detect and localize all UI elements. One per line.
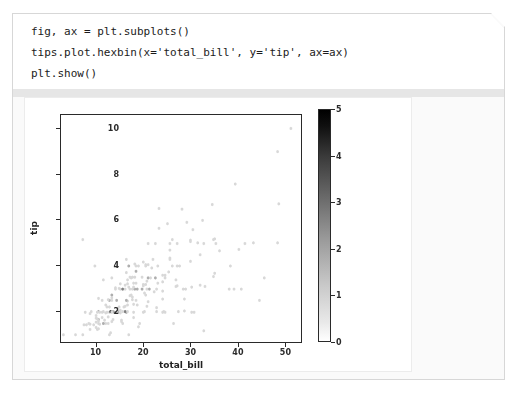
x-axis-label: total_bill xyxy=(60,360,302,370)
colorbar-tick-label: 1 xyxy=(336,291,342,300)
code-line-3: plt.show() xyxy=(31,67,97,80)
x-tick-label: 50 xyxy=(270,348,300,357)
y-tick-label: 6 xyxy=(79,215,119,224)
cell-separator xyxy=(13,89,504,97)
x-tick-label: 10 xyxy=(81,348,111,357)
colorbar-tick xyxy=(331,249,335,250)
y-tick xyxy=(56,265,60,266)
x-tick xyxy=(238,343,239,347)
matplotlib-figure: 246810 1020304050 total_bill tip 012345 xyxy=(24,97,412,372)
y-tick xyxy=(56,174,60,175)
x-tick-label: 20 xyxy=(128,348,158,357)
code-line-2: tips.plot.hexbin(x='total_bill', y='tip'… xyxy=(31,46,349,59)
x-tick xyxy=(285,343,286,347)
colorbar-tick-label: 5 xyxy=(336,105,342,114)
x-tick xyxy=(96,343,97,347)
y-tick xyxy=(56,219,60,220)
colorbar-tick xyxy=(331,109,335,110)
colorbar-tick-label: 0 xyxy=(336,338,342,347)
colorbar xyxy=(318,109,331,342)
x-tick xyxy=(190,343,191,347)
y-tick-label: 4 xyxy=(79,261,119,270)
x-tick xyxy=(143,343,144,347)
y-axis-label: tip xyxy=(29,221,39,235)
colorbar-tick xyxy=(331,295,335,296)
y-tick xyxy=(56,311,60,312)
colorbar-tick xyxy=(331,156,335,157)
colorbar-tick-label: 3 xyxy=(336,198,342,207)
code-cell[interactable]: fig, ax = plt.subplots() tips.plot.hexbi… xyxy=(13,14,504,89)
code-line-1: fig, ax = plt.subplots() xyxy=(31,25,190,38)
screenshot-root: fig, ax = plt.subplots() tips.plot.hexbi… xyxy=(0,0,526,397)
colorbar-tick-label: 4 xyxy=(336,151,342,160)
colorbar-tick xyxy=(331,202,335,203)
y-tick-label: 8 xyxy=(79,169,119,178)
x-tick-label: 30 xyxy=(175,348,205,357)
x-tick-label: 40 xyxy=(223,348,253,357)
colorbar-tick-label: 2 xyxy=(336,244,342,253)
y-tick-label: 10 xyxy=(79,123,119,132)
colorbar-tick xyxy=(331,342,335,343)
y-tick-label: 2 xyxy=(79,306,119,315)
y-tick xyxy=(56,128,60,129)
